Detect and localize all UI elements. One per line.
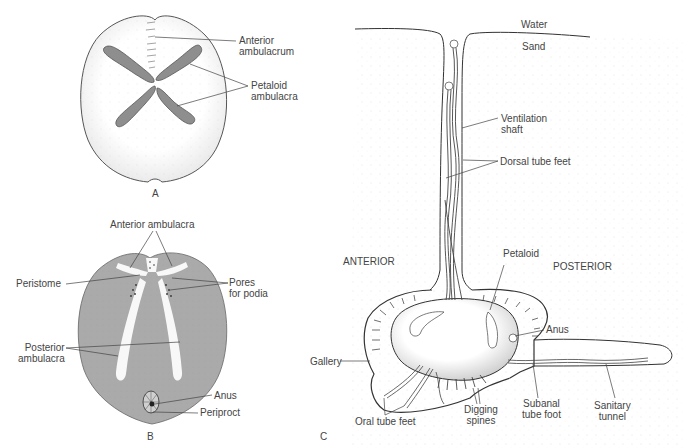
label-subanal-tube-foot: Subanal tube foot: [522, 398, 561, 420]
label-digging-spines: Digging spines: [464, 404, 498, 426]
label-gallery: Gallery: [310, 356, 342, 367]
label-anus-b: Anus: [214, 390, 237, 401]
periproct-shape: [143, 391, 159, 413]
label-water: Water: [521, 19, 547, 30]
label-text: ambulacra: [251, 91, 298, 102]
label-anterior: ANTERIOR: [343, 256, 395, 267]
label-ventilation-shaft: Ventilation shaft: [501, 113, 547, 135]
label-text: Pores: [229, 277, 268, 288]
label-text: ambulacrum: [239, 46, 294, 57]
label-anterior-ambulacra: Anterior ambulacra: [110, 219, 194, 230]
label-text: shaft: [501, 124, 547, 135]
label-text: Digging: [464, 404, 498, 415]
label-sanitary-tunnel: Sanitary tunnel: [594, 400, 631, 422]
label-periproct: Periproct: [200, 407, 240, 418]
panel-c-burrow: [340, 29, 684, 448]
panel-label-a: A: [152, 188, 159, 199]
label-sand: Sand: [522, 41, 545, 52]
label-petaloid: Petaloid: [503, 248, 539, 259]
panel-label-c: C: [320, 431, 327, 442]
label-text: Anterior: [239, 35, 294, 46]
label-dorsal-tube-feet: Dorsal tube feet: [500, 156, 571, 167]
label-pores-for-podia: Pores for podia: [229, 277, 268, 299]
label-posterior: POSTERIOR: [553, 261, 612, 272]
label-petaloid-ambulacra: Petaloid ambulacra: [251, 80, 298, 102]
label-text: tube foot: [522, 409, 561, 420]
label-text: Posterior: [18, 342, 65, 353]
label-text: Petaloid: [251, 80, 298, 91]
panel-a-test-aboral: [81, 16, 248, 182]
label-posterior-ambulacra: Posterior ambulacra: [18, 342, 65, 364]
label-text: for podia: [229, 288, 268, 299]
panel-b-test-oral: [66, 231, 228, 424]
label-text: Subanal: [522, 398, 561, 409]
label-anterior-ambulacrum: Anterior ambulacrum: [239, 35, 294, 57]
label-text: Sanitary: [594, 400, 631, 411]
label-text: Ventilation: [501, 113, 547, 124]
label-peristome: Peristome: [16, 278, 61, 289]
panel-label-b: B: [147, 431, 154, 442]
figure-illustration: [0, 0, 684, 448]
label-anus-c: Anus: [546, 324, 569, 335]
label-text: tunnel: [594, 411, 631, 422]
label-text: ambulacra: [18, 353, 65, 364]
label-oral-tube-feet: Oral tube feet: [355, 416, 416, 427]
label-text: spines: [464, 415, 498, 426]
